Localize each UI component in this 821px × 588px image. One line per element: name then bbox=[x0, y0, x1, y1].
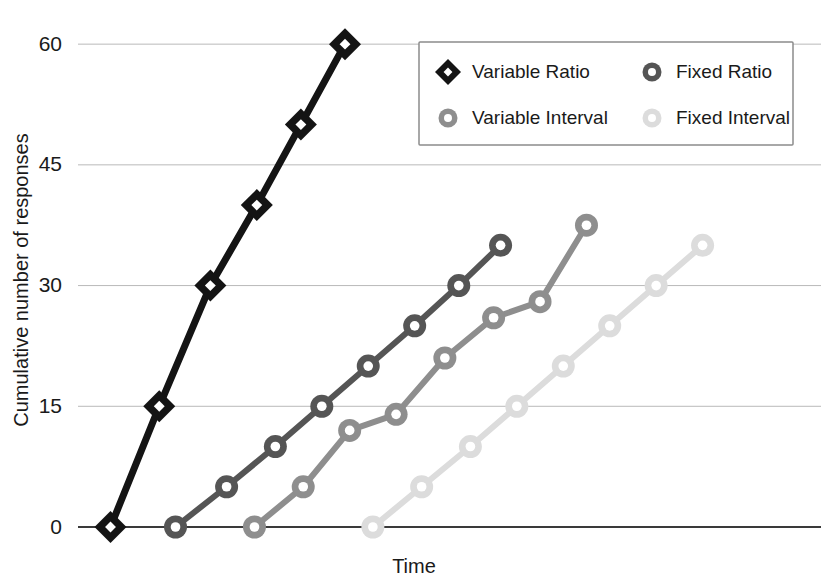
legend-label-2: Variable Interval bbox=[472, 107, 608, 128]
marker-circle-inner bbox=[317, 401, 327, 411]
legend-box bbox=[419, 42, 793, 145]
marker-circle-inner bbox=[558, 361, 568, 371]
marker-circle-inner bbox=[535, 297, 545, 307]
marker-circle-inner bbox=[391, 410, 401, 420]
marker-circle-inner bbox=[496, 241, 506, 251]
marker-circle-inner bbox=[368, 522, 378, 532]
marker-circle-inner bbox=[582, 220, 592, 230]
chart-legend[interactable]: Variable RatioFixed RatioVariable Interv… bbox=[419, 42, 793, 145]
marker-circle-inner bbox=[417, 482, 427, 492]
marker-circle-inner bbox=[648, 68, 656, 76]
y-tick-label: 30 bbox=[39, 273, 62, 296]
legend-marker-3 bbox=[643, 109, 662, 128]
legend-label-0: Variable Ratio bbox=[472, 61, 590, 82]
marker-circle-inner bbox=[512, 401, 522, 411]
y-tick-label: 15 bbox=[39, 394, 62, 417]
marker-circle-inner bbox=[222, 482, 232, 492]
marker-circle-inner bbox=[345, 426, 355, 436]
legend-marker-1 bbox=[643, 63, 662, 82]
x-axis-title: Time bbox=[392, 555, 436, 577]
cumulative-response-chart: 015304560 Cumulative number of responses… bbox=[0, 0, 821, 588]
marker-circle-inner bbox=[698, 241, 708, 251]
y-tick-label: 0 bbox=[50, 515, 62, 538]
y-tick-label: 45 bbox=[39, 152, 62, 175]
marker-circle-inner bbox=[651, 281, 661, 291]
marker-circle-inner bbox=[298, 482, 308, 492]
marker-circle-inner bbox=[444, 114, 452, 122]
marker-circle-inner bbox=[454, 281, 464, 291]
y-tick-label: 60 bbox=[39, 32, 62, 55]
marker-circle-inner bbox=[648, 114, 656, 122]
legend-label-1: Fixed Ratio bbox=[676, 61, 772, 82]
chart-container: 015304560 Cumulative number of responses… bbox=[0, 0, 821, 588]
y-axis-title: Cumulative number of responses bbox=[10, 133, 32, 426]
marker-circle-inner bbox=[271, 442, 281, 452]
marker-circle-inner bbox=[171, 522, 181, 532]
legend-marker-2 bbox=[439, 109, 458, 128]
marker-circle-inner bbox=[410, 321, 420, 331]
marker-circle-inner bbox=[440, 353, 450, 363]
legend-label-3: Fixed Interval bbox=[676, 107, 790, 128]
marker-circle-inner bbox=[605, 321, 615, 331]
marker-circle-inner bbox=[489, 313, 499, 323]
marker-circle-inner bbox=[363, 361, 373, 371]
marker-circle-inner bbox=[250, 522, 260, 532]
marker-circle-inner bbox=[466, 442, 476, 452]
